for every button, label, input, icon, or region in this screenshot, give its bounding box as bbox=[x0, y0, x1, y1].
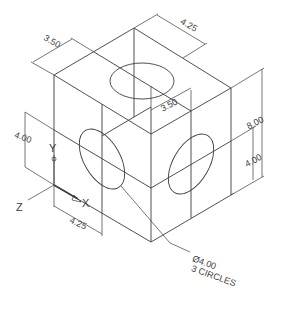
dim-label-height-left: 4.00 bbox=[13, 130, 33, 145]
axis-label-z: Z bbox=[16, 201, 23, 213]
cube-outline bbox=[54, 28, 231, 242]
dim-label-bottom-width: 4.25 bbox=[68, 215, 88, 231]
axis-label-x: X bbox=[82, 197, 90, 209]
dim-label-inner-offset: 3.50 bbox=[159, 97, 179, 114]
construction-lines bbox=[54, 28, 231, 218]
dim-height-total: 8.00 bbox=[231, 68, 265, 195]
dim-top-width: 4.25 bbox=[134, 14, 207, 58]
isometric-drawing: 3.50 4.25 3.50 8.00 4.00 4.00 bbox=[0, 0, 304, 314]
drawing-canvas: 3.50 4.25 3.50 8.00 4.00 4.00 bbox=[0, 0, 304, 314]
dim-height-right: 4.00 bbox=[231, 126, 263, 195]
dim-label-top-depth: 3.50 bbox=[42, 33, 62, 50]
axis-label-y: Y bbox=[49, 142, 57, 154]
dim-height-left: 4.00 bbox=[13, 112, 54, 185]
dim-label-height-right: 4.00 bbox=[243, 152, 263, 169]
dim-label-top-width: 4.25 bbox=[179, 16, 199, 33]
dim-top-depth: 3.50 bbox=[31, 33, 94, 75]
ucs-axis-icon: Y Z X bbox=[16, 142, 90, 213]
dim-bottom-width: 4.25 bbox=[54, 185, 102, 236]
